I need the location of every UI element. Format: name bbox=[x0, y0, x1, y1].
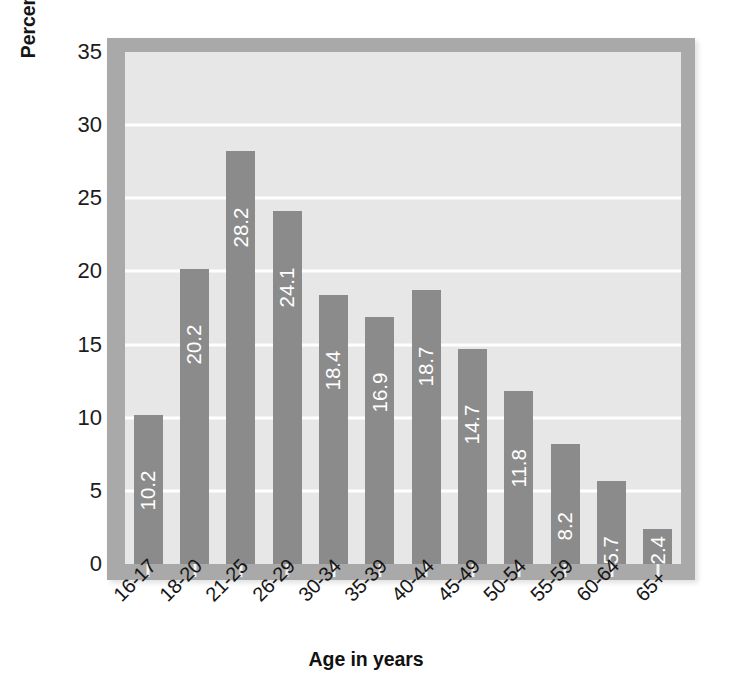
y-axis-title-container: Percent driving under the influence in p… bbox=[8, 30, 48, 590]
bar-value-label: 24.1 bbox=[277, 268, 298, 308]
bar-value-label-container: 10.2 bbox=[134, 421, 163, 511]
y-axis-tick-label: 5 bbox=[56, 480, 102, 502]
bar-value-label-container: 20.2 bbox=[180, 275, 209, 365]
gridline bbox=[125, 124, 681, 127]
bar-value-label: 14.7 bbox=[462, 405, 483, 445]
y-axis-tick-label: 15 bbox=[56, 334, 102, 356]
bar-value-label-container: 16.9 bbox=[365, 323, 394, 413]
bar-value-label-container: 14.7 bbox=[458, 355, 487, 445]
bar-value-label: 20.2 bbox=[184, 325, 205, 365]
y-axis-tick-label: 10 bbox=[56, 407, 102, 429]
plot-frame: 10.220.228.224.118.416.918.714.711.88.25… bbox=[107, 38, 695, 580]
bar-value-label: 16.9 bbox=[370, 373, 391, 413]
bar: 24.1 bbox=[273, 211, 302, 564]
bar: 16.9 bbox=[365, 317, 394, 564]
y-axis-tick-label: 25 bbox=[56, 187, 102, 209]
y-axis-tick-label: 30 bbox=[56, 114, 102, 136]
y-axis-tick-label: 0 bbox=[56, 553, 102, 575]
bar: 5.7 bbox=[597, 481, 626, 564]
bar-value-label-container: 28.2 bbox=[226, 157, 255, 247]
bar: 11.8 bbox=[504, 391, 533, 564]
bar-value-label: 10.2 bbox=[138, 471, 159, 511]
bar-value-label: 18.4 bbox=[323, 351, 344, 391]
bar-chart-figure: Percent driving under the influence in p… bbox=[0, 0, 732, 688]
bar: 8.2 bbox=[551, 444, 580, 564]
bar-value-label: 18.7 bbox=[416, 347, 437, 387]
bar: 18.4 bbox=[319, 295, 348, 564]
y-axis-tick-label: 35 bbox=[56, 41, 102, 63]
bar: 14.7 bbox=[458, 349, 487, 564]
bar-value-label: 28.2 bbox=[231, 208, 252, 248]
bar: 10.2 bbox=[134, 415, 163, 564]
bar-value-label: 8.2 bbox=[555, 512, 576, 541]
bar-value-label-container: 2.4 bbox=[643, 474, 672, 564]
bar-value-label-container: 18.4 bbox=[319, 301, 348, 391]
bar: 20.2 bbox=[180, 269, 209, 564]
bar: 28.2 bbox=[226, 151, 255, 564]
bar-value-label-container: 24.1 bbox=[273, 217, 302, 307]
bar-value-label-container: 18.7 bbox=[412, 296, 441, 386]
bar: 18.7 bbox=[412, 290, 441, 564]
y-axis-tick-label: 20 bbox=[56, 260, 102, 282]
plot-area: 10.220.228.224.118.416.918.714.711.88.25… bbox=[125, 52, 681, 564]
y-axis-tick-labels: 05101520253035 bbox=[56, 0, 102, 688]
bar-value-label-container: 5.7 bbox=[597, 474, 626, 564]
bar-value-label: 2.4 bbox=[648, 536, 669, 565]
bar: 2.4 bbox=[643, 529, 672, 564]
bar-value-label-container: 11.8 bbox=[504, 397, 533, 487]
bar-value-label: 11.8 bbox=[509, 449, 530, 487]
y-axis-title: Percent driving under the influence in p… bbox=[8, 0, 48, 110]
bar-value-label-container: 8.2 bbox=[551, 450, 580, 540]
gridline bbox=[125, 197, 681, 200]
x-axis-title: Age in years bbox=[0, 648, 732, 671]
